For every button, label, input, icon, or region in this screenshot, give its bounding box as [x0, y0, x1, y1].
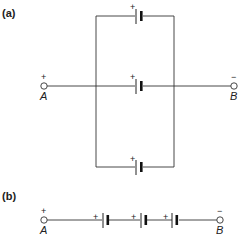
- battery-a-bottom: [136, 160, 143, 175]
- panel-a-label: (a): [2, 7, 16, 19]
- battery-b-3: [172, 213, 178, 228]
- panel-b-label: (b): [2, 190, 16, 202]
- terminal-a-name: A: [39, 224, 47, 236]
- terminal-a-panel-a: [41, 83, 47, 89]
- terminal-b-name: B: [230, 90, 237, 102]
- battery-b-2: [141, 213, 147, 228]
- battery-b-1: [103, 213, 109, 228]
- circuit-diagram: (a) (b) + + + + + + + A − B + A − B: [0, 0, 244, 247]
- terminal-b-name: B: [216, 224, 223, 236]
- terminal-b-panel-a: [231, 83, 237, 89]
- terminal-b-polarity: −: [231, 72, 236, 82]
- plus-sign: +: [163, 212, 168, 222]
- terminal-a-polarity: +: [41, 206, 46, 216]
- plus-sign: +: [93, 212, 98, 222]
- plus-sign: +: [131, 212, 136, 222]
- plus-sign: +: [130, 72, 135, 82]
- panel-a-wires: [47, 16, 231, 167]
- terminal-b-panel-b: [217, 217, 223, 223]
- terminal-a-polarity: +: [41, 72, 46, 82]
- terminal-a-name: A: [39, 90, 47, 102]
- plus-sign: +: [130, 2, 135, 12]
- terminal-b-polarity: −: [217, 206, 222, 216]
- battery-a-top: [136, 9, 143, 24]
- terminal-a-panel-b: [41, 217, 47, 223]
- plus-sign: +: [130, 154, 135, 164]
- battery-a-middle: [136, 79, 143, 94]
